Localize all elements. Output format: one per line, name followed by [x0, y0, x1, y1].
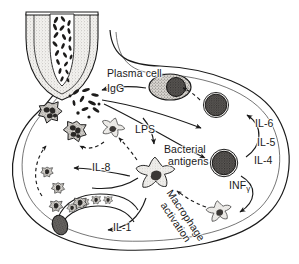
label-bacterial-antigens-line2: antigens	[168, 156, 209, 168]
lymphocyte-upper	[203, 92, 228, 117]
label-igg: IgG	[107, 83, 124, 95]
immunology-diagram: Plasma cell IgG LPS Bacterial antigens I…	[0, 0, 299, 264]
label-il5: IL-5	[257, 137, 276, 149]
label-il6: IL-6	[255, 118, 274, 130]
label-inf-gamma-subscript: γ	[246, 184, 250, 193]
label-il1: IL-1	[113, 222, 132, 234]
label-il4: IL-4	[254, 155, 273, 167]
label-plasma-cell: Plasma cell	[107, 68, 162, 80]
label-lps: LPS	[135, 124, 155, 136]
label-inf-gamma: INFγ	[229, 180, 250, 195]
label-inf-gamma-text: INF	[229, 179, 246, 191]
label-il8: IL-8	[92, 162, 111, 174]
lymphocyte-lower	[210, 149, 237, 176]
label-bacterial-antigens-line1: Bacterial	[164, 144, 206, 156]
